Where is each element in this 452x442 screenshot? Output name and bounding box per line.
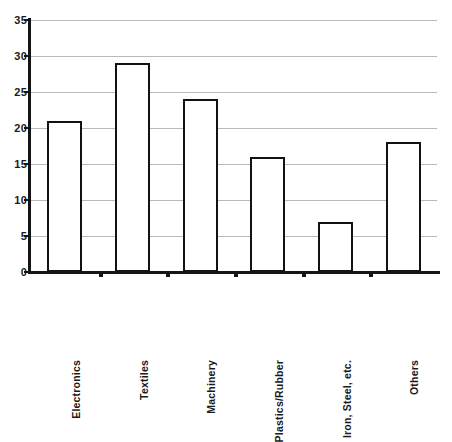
x-axis-tick-mark [234, 274, 238, 277]
y-axis-tick-mark [24, 163, 29, 165]
y-axis-tick-mark [24, 199, 29, 201]
bar [115, 63, 150, 272]
x-axis-category-label: Plastics/Rubber [273, 360, 285, 442]
y-axis-tick-mark [24, 91, 29, 93]
y-axis-tick-mark [24, 127, 29, 129]
bar [250, 157, 285, 272]
x-axis-tick-mark [369, 274, 373, 277]
x-axis-tick-mark [302, 274, 306, 277]
y-axis-tick-mark [24, 271, 29, 273]
x-axis-category-label: Machinery [205, 360, 217, 414]
bar [318, 222, 353, 272]
x-axis-category-label: Iron, Steel, etc. [341, 360, 353, 438]
gridline [31, 128, 437, 129]
y-axis-tick-mark [24, 235, 29, 237]
y-axis-tick-labels: 05101520253035 [0, 0, 27, 362]
x-axis-category-labels: ElectronicsTextilesMachineryPlastics/Rub… [31, 276, 437, 362]
gridline [31, 236, 437, 237]
y-axis-tick-mark [24, 55, 29, 57]
gridline [31, 56, 437, 57]
y-axis-tick-mark [24, 19, 29, 21]
x-axis-tick-mark [166, 274, 170, 277]
bar [386, 142, 421, 272]
gridline [31, 20, 437, 21]
x-axis-category-label: Electronics [70, 360, 82, 419]
bar [47, 121, 82, 272]
x-axis-category-label: Others [408, 360, 420, 395]
bar [183, 99, 218, 272]
x-axis-tick-mark [99, 274, 103, 277]
plot-area [31, 20, 437, 272]
gridline [31, 92, 437, 93]
gridline [31, 164, 437, 165]
gridline [31, 200, 437, 201]
x-axis-category-label: Textiles [138, 360, 150, 400]
